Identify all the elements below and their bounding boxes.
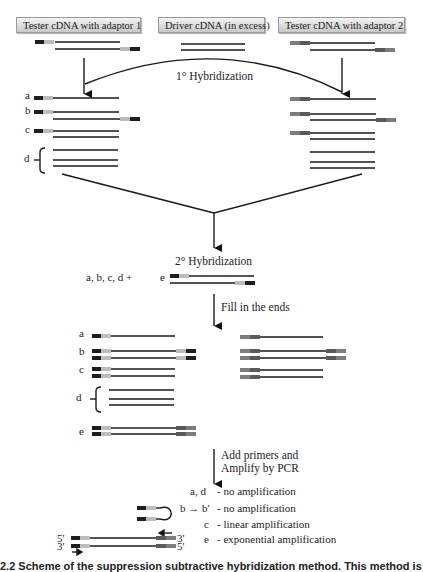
- result-e-text: - exponential amplification: [217, 533, 336, 545]
- label-c-fill: c: [79, 363, 84, 375]
- label-b-hyb1: b: [25, 104, 31, 116]
- label-d-fill: d: [76, 391, 82, 403]
- label-c-hyb1: c: [25, 123, 30, 135]
- label-a-hyb1: a: [25, 89, 30, 101]
- label-a-fill: a: [79, 327, 84, 339]
- step-pcr-line1: Add primers and: [221, 449, 298, 461]
- result-c-text: - linear amplification: [217, 518, 310, 530]
- label-d-hyb1: d: [24, 152, 30, 164]
- step-fill-ends: Fill in the ends: [221, 301, 290, 313]
- result-b-key: b → b': [180, 502, 209, 514]
- result-ad-key: a, d: [190, 485, 206, 497]
- label-e-fill: e: [79, 425, 84, 437]
- label-abcd-combo: a, b, c, d +: [86, 271, 132, 283]
- step-secondary-hybridization: 2° Hybridization: [175, 255, 252, 267]
- step-primary-hybridization: 1° Hybridization: [176, 70, 253, 82]
- result-e-key: e: [204, 533, 209, 545]
- result-b-text: - no amplification: [217, 502, 296, 514]
- result-ad-text: - no amplification: [217, 485, 296, 497]
- label-e-hyb2: e: [160, 271, 165, 283]
- end-label-bottom-right: 5': [177, 540, 184, 552]
- end-label-bottom-left: 3': [57, 540, 64, 552]
- label-b-fill: b: [79, 345, 85, 357]
- result-c-key: c: [204, 518, 209, 530]
- figure-caption: 2.2 Scheme of the suppression subtractiv…: [0, 560, 423, 572]
- step-pcr-line2: Amplify by PCR: [221, 462, 299, 474]
